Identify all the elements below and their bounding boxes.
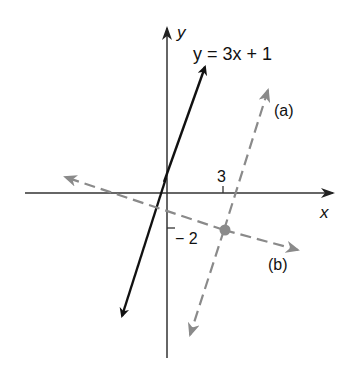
- line-a-label: (a): [274, 102, 294, 119]
- intersection-point: [220, 225, 231, 236]
- line-b-left: [65, 177, 224, 230]
- line-a-upper: [224, 90, 268, 230]
- line-b-right: [224, 230, 298, 250]
- line-y-equals-3x-plus-1: [164, 67, 205, 182]
- y-axis-label: y: [176, 23, 187, 42]
- y-tick-label-neg2: − 2: [175, 230, 198, 247]
- line-b-label: (b): [268, 256, 288, 273]
- line-y-equals-3x-plus-1-lower: [122, 178, 166, 316]
- x-tick-label-3: 3: [217, 168, 226, 185]
- equation-label: y = 3x + 1: [193, 44, 272, 64]
- coordinate-diagram: y x y = 3x + 1 (a) (b) 3 − 2: [0, 0, 351, 376]
- x-axis-label: x: [319, 203, 329, 222]
